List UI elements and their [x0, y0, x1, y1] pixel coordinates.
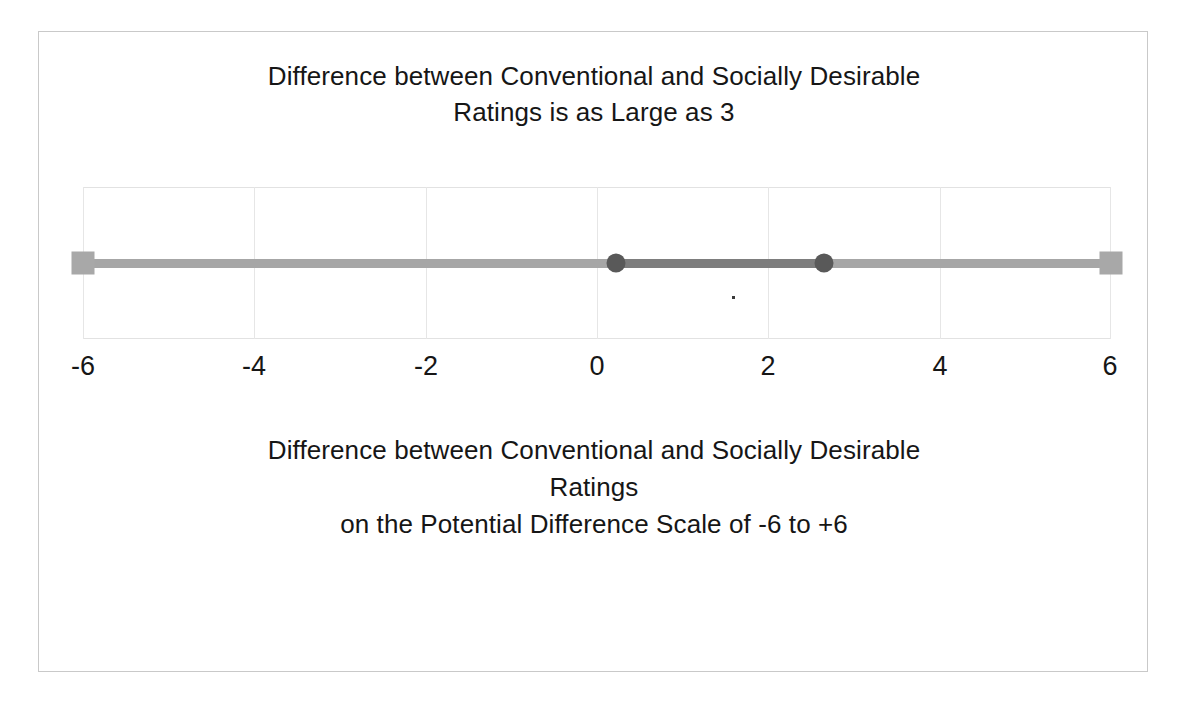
chart-title-line-1: Difference between Conventional and Soci…: [39, 58, 1149, 94]
figure-frame: Difference between Conventional and Soci…: [38, 31, 1148, 672]
x-axis-caption-line-3: on the Potential Difference Scale of -6 …: [39, 506, 1149, 543]
x-tick-label--2: -2: [414, 350, 438, 382]
x-tick-label-6: 6: [1102, 350, 1117, 382]
x-axis-caption: Difference between Conventional and Soci…: [39, 432, 1149, 543]
marker-circle-upper-observed: [815, 254, 834, 273]
x-axis-tick-labels: -6 -4 -2 0 2 4 6: [83, 350, 1111, 390]
x-tick-label-0: 0: [589, 350, 604, 382]
series-line-potential-range: [83, 259, 1111, 268]
chart-title-line-2: Ratings is as Large as 3: [39, 94, 1149, 130]
scan-speck: [732, 296, 735, 299]
series-line-observed-range: [616, 259, 824, 268]
chart-title: Difference between Conventional and Soci…: [39, 58, 1149, 130]
x-axis-caption-line-1: Difference between Conventional and Soci…: [39, 432, 1149, 469]
x-axis-caption-line-2: Ratings: [39, 469, 1149, 506]
marker-square-scale-max: [1100, 252, 1123, 275]
marker-square-scale-min: [72, 252, 95, 275]
x-tick-label--6: -6: [71, 350, 95, 382]
x-tick-label-2: 2: [760, 350, 775, 382]
x-tick-label--4: -4: [242, 350, 266, 382]
x-tick-label-4: 4: [932, 350, 947, 382]
marker-circle-lower-observed: [607, 254, 626, 273]
plot-area: [83, 187, 1111, 339]
